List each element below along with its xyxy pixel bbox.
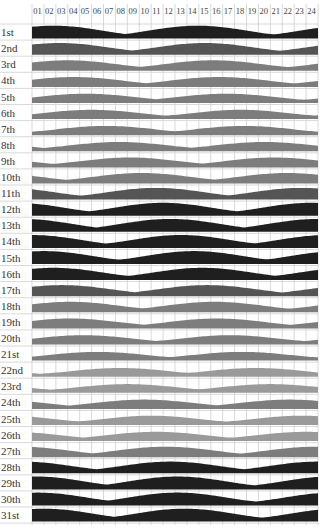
day-label: 7th [1,123,16,135]
day-label: 5th [1,91,16,103]
day-label: 10th [1,171,21,183]
hour-label: 11 [152,6,160,16]
tide-curve [32,268,318,280]
tide-curve [32,203,318,215]
day-label: 22nd [1,364,24,376]
hour-label: 16 [212,6,221,16]
day-label: 13th [1,219,21,231]
hour-label: 04 [69,6,78,16]
day-label: 21st [1,348,19,360]
day-label: 11th [1,187,21,199]
tide-curve [32,251,318,263]
tide-curve [32,493,318,505]
day-label: 8th [1,139,16,151]
day-label: 6th [1,107,16,119]
tide-curve [32,188,318,199]
tide-curve [32,235,318,247]
day-label: 27th [1,445,21,457]
day-label: 15th [1,252,21,264]
tide-curve [32,432,318,441]
day-label: 12th [1,203,21,215]
hour-label: 19 [248,6,257,16]
hour-label: 12 [164,6,173,16]
day-label: 29th [1,477,21,489]
hour-label: 02 [45,6,54,16]
hour-label: 23 [295,6,304,16]
day-label: 24th [1,396,21,408]
day-label: 19th [1,316,21,328]
day-label: 30th [1,493,21,505]
hour-label: 03 [57,6,66,16]
day-label: 4th [1,74,16,86]
tide-chart: 0102030405060708091011121314151617181920… [0,0,327,530]
day-label: 2nd [1,42,18,54]
tide-curve [32,447,318,457]
day-label: 3rd [1,58,16,70]
day-label: 23rd [1,380,22,392]
hour-label: 20 [260,6,269,16]
hour-label: 13 [176,6,185,16]
hour-label: 01 [33,6,42,16]
day-label: 25th [1,413,21,425]
hour-label: 18 [236,6,245,16]
day-label: 18th [1,300,21,312]
day-label: 14th [1,235,21,247]
day-label: 16th [1,268,21,280]
hour-label: 24 [307,6,316,16]
day-label: 20th [1,332,21,344]
hour-label: 07 [105,6,114,16]
day-label: 31st [1,509,19,521]
tide-curve [32,219,318,231]
hour-label: 09 [129,6,138,16]
hour-label: 06 [93,6,102,16]
hour-label: 05 [81,6,90,16]
tide-curve [32,416,318,425]
hour-label: 10 [140,6,149,16]
hour-label: 17 [224,6,233,16]
hour-label: 08 [117,6,126,16]
tide-curve [32,509,318,521]
day-label: 1st [1,26,14,38]
tide-curve [32,462,318,473]
hour-label: 14 [188,6,197,16]
tide-curve [32,477,318,489]
day-label: 26th [1,429,21,441]
day-label: 28th [1,461,21,473]
hour-label: 22 [283,6,292,16]
day-label: 17th [1,284,21,296]
tide-curve [32,26,318,38]
hour-label: 21 [272,6,281,16]
hour-label: 15 [200,6,209,16]
day-label: 9th [1,155,16,167]
